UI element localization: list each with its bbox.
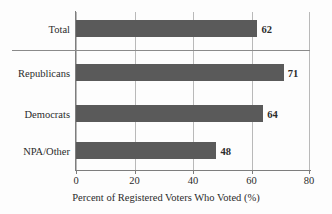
bar-republicans: [76, 64, 284, 81]
y-axis-labels: Total Republicans Democrats NPA/Other: [0, 0, 70, 214]
plot-area: 62 71 64 48: [76, 12, 310, 170]
gridline-80: [309, 12, 310, 170]
bar-chart: 62 71 64 48 Total Republicans Democrats …: [0, 0, 332, 214]
bar-total: [76, 20, 257, 37]
x-tick-60: [252, 170, 253, 174]
y-label-democrats: Democrats: [2, 108, 70, 119]
bar-npa-other: [76, 142, 216, 159]
y-axis-line: [75, 11, 76, 171]
x-tick-0: [76, 170, 77, 174]
bar-value-total: 62: [257, 23, 272, 34]
bar-value-republicans: 71: [284, 67, 299, 78]
y-label-npa-other: NPA/Other: [2, 145, 70, 156]
y-label-total: Total: [2, 23, 70, 34]
x-tick-label-80: 80: [304, 175, 315, 186]
x-tick-label-20: 20: [129, 175, 140, 186]
bar-democrats: [76, 105, 263, 122]
x-tick-label-40: 40: [188, 175, 199, 186]
x-tick-label-0: 0: [73, 175, 78, 186]
x-axis-title: Percent of Registered Voters Who Voted (…: [0, 192, 332, 203]
x-tick-label-60: 60: [246, 175, 257, 186]
bar-value-npa-other: 48: [216, 145, 231, 156]
y-label-republicans: Republicans: [2, 67, 70, 78]
bar-value-democrats: 64: [263, 108, 278, 119]
x-tick-40: [193, 170, 194, 174]
x-tick-80: [309, 170, 310, 174]
x-tick-20: [135, 170, 136, 174]
